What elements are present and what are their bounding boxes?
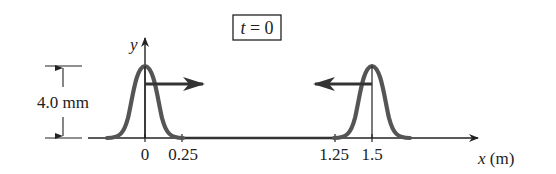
x-axis-label: x (m) — [477, 149, 514, 168]
y-axis-label: y — [128, 35, 138, 54]
tick-label-1.5: 1.5 — [361, 145, 382, 164]
wave-pulses-diagram: t = 0 y 0 0.25 1.25 1.5 x (m) — [0, 0, 556, 174]
tick-label-0: 0 — [141, 145, 150, 164]
time-label-box: t = 0 — [233, 15, 281, 40]
svg-text:t = 0: t = 0 — [240, 18, 273, 38]
tick-label-0.25: 0.25 — [168, 145, 198, 164]
diagram-canvas: t = 0 y 0 0.25 1.25 1.5 x (m) — [0, 0, 556, 174]
amplitude-label: 4.0 mm — [37, 93, 89, 112]
time-value: = 0 — [245, 18, 273, 38]
tick-label-1.25: 1.25 — [319, 145, 349, 164]
